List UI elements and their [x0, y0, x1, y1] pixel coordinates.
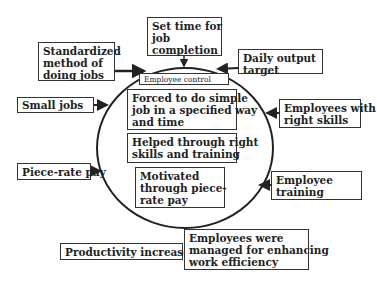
helped-box: Helped through right skills and training: [127, 133, 237, 163]
piece-rate-line: Piece-rate pay: [22, 166, 86, 178]
forced-line: and time: [132, 116, 232, 128]
employee-control-label: Employee control: [139, 73, 229, 85]
set-time-line: Set time for: [152, 20, 217, 32]
efficiency-line: managed for enhancing: [189, 244, 304, 256]
standardized-line: method of: [43, 57, 110, 69]
forced-box: Forced to do simple job in a specified w…: [127, 89, 237, 130]
motivated-line: rate pay: [140, 194, 220, 206]
piece-rate-box: Piece-rate pay: [17, 163, 91, 180]
forced-line: Forced to do simple: [132, 92, 232, 104]
training-box: Employee training: [271, 171, 362, 200]
motivated-line: through piece-: [140, 182, 220, 194]
right-skills-line: right skills: [284, 114, 356, 126]
right-skills-line: Employees with: [284, 102, 356, 114]
set-time-box: Set time for job completion: [147, 17, 222, 56]
helped-line: Helped through right: [132, 136, 232, 148]
motivated-box: Motivated through piece- rate pay: [135, 167, 225, 208]
small-jobs-line: Small jobs: [22, 99, 89, 111]
standardized-box: Standardized method of doing jobs: [38, 42, 115, 81]
helped-line: skills and training: [132, 148, 232, 160]
set-time-line: job: [152, 32, 217, 44]
daily-output-line: Daily output: [243, 52, 318, 64]
efficiency-box: Employees were managed for enhancing wor…: [184, 229, 309, 270]
right-skills-box: Employees with right skills: [279, 99, 361, 128]
efficiency-line: work efficiency: [189, 256, 304, 268]
employee-control-text: Employee control: [144, 75, 224, 84]
standardized-line: doing jobs: [43, 69, 110, 81]
motivated-line: Motivated: [140, 170, 220, 182]
arrow-daily-output: [218, 68, 238, 69]
daily-output-line: target: [243, 64, 318, 76]
productivity-box: Productivity increased: [60, 243, 183, 260]
small-jobs-box: Small jobs: [17, 97, 94, 113]
standardized-line: Standardized: [43, 45, 110, 57]
training-line: Employee: [276, 174, 357, 186]
forced-line: job in a specified way: [132, 104, 232, 116]
efficiency-line: Employees were: [189, 232, 304, 244]
productivity-line: Productivity increased: [65, 246, 178, 258]
set-time-line: completion: [152, 44, 217, 56]
training-line: training: [276, 186, 357, 198]
daily-output-box: Daily output target: [238, 49, 323, 74]
